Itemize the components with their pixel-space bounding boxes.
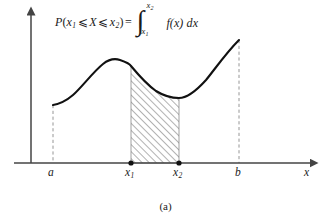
axis-tick-x2-sub: 2 xyxy=(178,171,182,180)
figure-caption: (a) xyxy=(0,200,331,212)
formula-le-2: ⩽ xyxy=(97,15,110,29)
formula-close-paren: ) xyxy=(119,15,123,29)
formula-random-variable: X xyxy=(89,15,96,29)
integral-upper-sub: 2 xyxy=(150,5,153,11)
shaded-probability-region xyxy=(131,66,179,163)
axis-tick-label-x1: x1 xyxy=(125,166,134,180)
probability-integral-formula: P(x1⩽X⩽x2)= ∫ x2 x1 f(x) dx xyxy=(55,8,198,38)
formula-equals: = xyxy=(124,15,134,29)
integral-operator: ∫ x2 x1 xyxy=(136,8,158,38)
axis-tick-label-x2: x2 xyxy=(173,166,182,180)
integral-lower-limit: x1 xyxy=(141,27,148,37)
formula-le-1: ⩽ xyxy=(76,15,89,29)
point-marker-x1 xyxy=(128,160,133,165)
integral-lower-sub: 1 xyxy=(145,31,148,37)
axis-tick-x1-sub: 1 xyxy=(130,171,134,180)
formula-integrand: f(x) dx xyxy=(166,17,198,29)
x-axis-label: x xyxy=(304,166,309,178)
axis-tick-label-a: a xyxy=(48,166,54,178)
axis-tick-label-b: b xyxy=(235,166,241,178)
point-marker-x2 xyxy=(176,160,181,165)
probability-density-figure: P(x1⩽X⩽x2)= ∫ x2 x1 f(x) dx a x1 x2 b x … xyxy=(0,0,331,220)
integral-upper-limit: x2 xyxy=(146,1,153,11)
